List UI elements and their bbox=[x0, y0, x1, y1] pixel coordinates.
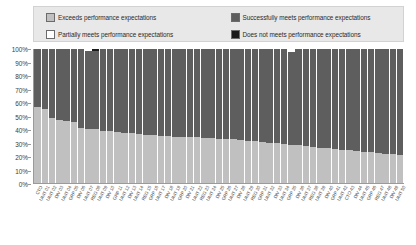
bar-segment-successfully-meets bbox=[85, 51, 92, 129]
bar[interactable] bbox=[288, 49, 295, 183]
bar[interactable] bbox=[158, 49, 165, 183]
bar-segment-successfully-meets bbox=[237, 49, 244, 140]
bar[interactable] bbox=[150, 49, 157, 183]
y-axis-tick-mark bbox=[28, 130, 31, 131]
bar-segment-successfully-meets bbox=[143, 49, 150, 135]
y-axis-tick-label: 40% bbox=[15, 127, 28, 134]
bar[interactable] bbox=[121, 49, 128, 183]
legend-label-exceeds: Exceeds performance expectations bbox=[58, 14, 156, 21]
bar-segment-successfully-meets bbox=[245, 49, 252, 141]
bar[interactable] bbox=[375, 49, 382, 183]
bar-segment-exceeds bbox=[42, 109, 49, 183]
bar-segment-successfully-meets bbox=[114, 49, 121, 132]
bar[interactable] bbox=[136, 49, 143, 183]
bar[interactable] bbox=[266, 49, 273, 183]
y-axis-tick-mark bbox=[28, 117, 31, 118]
bar[interactable] bbox=[361, 49, 368, 183]
bar-segment-successfully-meets bbox=[339, 49, 346, 150]
bar[interactable] bbox=[397, 49, 404, 183]
bar[interactable] bbox=[100, 49, 107, 183]
bar[interactable] bbox=[78, 49, 85, 183]
y-axis-tick-mark bbox=[28, 90, 31, 91]
y-axis-tick-mark bbox=[28, 63, 31, 64]
bar[interactable] bbox=[34, 49, 41, 183]
bar-segment-successfully-meets bbox=[92, 51, 99, 129]
legend-item-does-not-meet: Does not meets performance expectations bbox=[219, 25, 404, 43]
y-axis-tick-label: 50% bbox=[15, 113, 28, 120]
chart-legend: Exceeds performance expectations Success… bbox=[33, 6, 404, 42]
legend-swatch-exceeds-icon bbox=[46, 13, 55, 22]
bar[interactable] bbox=[71, 49, 78, 183]
bar[interactable] bbox=[49, 49, 56, 183]
legend-label-does-not-meet: Does not meets performance expectations bbox=[243, 31, 361, 38]
bar-segment-successfully-meets bbox=[42, 49, 49, 109]
bar[interactable] bbox=[223, 49, 230, 183]
bar[interactable] bbox=[390, 49, 397, 183]
bar[interactable] bbox=[194, 49, 201, 183]
bar[interactable] bbox=[172, 49, 179, 183]
bar[interactable] bbox=[129, 49, 136, 183]
bar[interactable] bbox=[324, 49, 331, 183]
bar[interactable] bbox=[230, 49, 237, 183]
bar-segment-successfully-meets bbox=[187, 49, 194, 137]
bar-segment-successfully-meets bbox=[158, 49, 165, 136]
bar[interactable] bbox=[92, 49, 99, 183]
bar-segment-successfully-meets bbox=[324, 49, 331, 148]
bar[interactable] bbox=[295, 49, 302, 183]
bar[interactable] bbox=[317, 49, 324, 183]
bar[interactable] bbox=[237, 49, 244, 183]
bar[interactable] bbox=[339, 49, 346, 183]
bar[interactable] bbox=[310, 49, 317, 183]
bar-segment-successfully-meets bbox=[100, 49, 107, 131]
bar-segment-successfully-meets bbox=[201, 49, 208, 138]
bar[interactable] bbox=[208, 49, 215, 183]
bar-segment-successfully-meets bbox=[71, 49, 78, 122]
bar[interactable] bbox=[42, 49, 49, 183]
bar[interactable] bbox=[85, 49, 92, 183]
y-axis-tick-mark bbox=[28, 103, 31, 104]
y-axis-tick-mark bbox=[28, 49, 31, 50]
bar-segment-successfully-meets bbox=[303, 49, 310, 146]
bar[interactable] bbox=[165, 49, 172, 183]
bar[interactable] bbox=[201, 49, 208, 183]
bar-segment-successfully-meets bbox=[288, 52, 295, 145]
bar-segment-successfully-meets bbox=[194, 49, 201, 137]
bar[interactable] bbox=[353, 49, 360, 183]
bar[interactable] bbox=[107, 49, 114, 183]
bar-segment-successfully-meets bbox=[390, 49, 397, 154]
y-axis-tick-mark bbox=[28, 76, 31, 77]
bar-segment-successfully-meets bbox=[129, 49, 136, 133]
y-axis-tick-mark bbox=[28, 171, 31, 172]
bar[interactable] bbox=[216, 49, 223, 183]
bar-series-container bbox=[34, 49, 404, 183]
bar-segment-successfully-meets bbox=[252, 49, 259, 141]
bar-segment-successfully-meets bbox=[230, 49, 237, 139]
bar[interactable] bbox=[346, 49, 353, 183]
bar-segment-successfully-meets bbox=[208, 49, 215, 138]
bar[interactable] bbox=[332, 49, 339, 183]
bar-segment-successfully-meets bbox=[368, 49, 375, 152]
bar-segment-successfully-meets bbox=[274, 49, 281, 143]
bar[interactable] bbox=[114, 49, 121, 183]
bar-segment-successfully-meets bbox=[382, 49, 389, 154]
bar[interactable] bbox=[368, 49, 375, 183]
bar[interactable] bbox=[63, 49, 70, 183]
bar-segment-successfully-meets bbox=[165, 49, 172, 136]
x-axis-tick-label: UNIT 50 bbox=[402, 171, 414, 188]
bar-segment-successfully-meets bbox=[34, 49, 41, 107]
bar[interactable] bbox=[382, 49, 389, 183]
y-axis-tick-label: 60% bbox=[15, 100, 28, 107]
bar[interactable] bbox=[245, 49, 252, 183]
bar[interactable] bbox=[274, 49, 281, 183]
bar-segment-successfully-meets bbox=[107, 49, 114, 131]
bar[interactable] bbox=[187, 49, 194, 183]
bar[interactable] bbox=[252, 49, 259, 183]
y-axis: 0%10%20%30%40%50%60%70%80%90%100% bbox=[0, 49, 31, 184]
y-axis-tick-label: 90% bbox=[15, 59, 28, 66]
bar[interactable] bbox=[303, 49, 310, 183]
bar[interactable] bbox=[56, 49, 63, 183]
bar[interactable] bbox=[281, 49, 288, 183]
bar[interactable] bbox=[143, 49, 150, 183]
bar[interactable] bbox=[259, 49, 266, 183]
bar[interactable] bbox=[179, 49, 186, 183]
